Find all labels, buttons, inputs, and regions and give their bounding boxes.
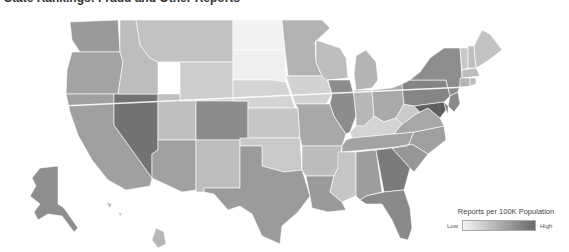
- legend-low-label: Low: [447, 223, 458, 229]
- map-legend: Reports per 100K Population Low High: [447, 207, 565, 231]
- state-wy[interactable]: [180, 62, 233, 101]
- state-az[interactable]: [152, 140, 196, 192]
- state-hi[interactable]: [106, 202, 166, 248]
- state-me[interactable]: [474, 30, 502, 68]
- legend-scale: Low High: [447, 220, 565, 231]
- state-ks[interactable]: [248, 108, 300, 138]
- legend-title: Reports per 100K Population: [447, 207, 565, 216]
- state-ut[interactable]: [158, 94, 196, 140]
- state-ia[interactable]: [286, 76, 332, 104]
- state-nd[interactable]: [233, 20, 285, 50]
- state-wa[interactable]: [70, 20, 120, 52]
- state-mi[interactable]: [354, 50, 378, 90]
- legend-gradient-bar: [462, 220, 536, 231]
- state-or[interactable]: [66, 52, 123, 94]
- state-ct[interactable]: [460, 78, 470, 88]
- state-mt[interactable]: [136, 20, 233, 62]
- state-co[interactable]: [196, 101, 248, 140]
- state-ak[interactable]: [30, 166, 78, 232]
- state-sd[interactable]: [233, 50, 286, 82]
- state-fl[interactable]: [360, 190, 412, 240]
- state-ri[interactable]: [470, 78, 476, 86]
- state-nm[interactable]: [196, 140, 240, 192]
- legend-high-label: High: [540, 223, 552, 229]
- state-ma[interactable]: [462, 68, 480, 78]
